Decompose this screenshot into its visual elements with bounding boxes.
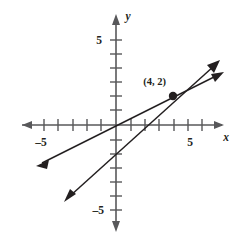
- line-series-1: [36, 72, 224, 169]
- coordinate-plane-figure: –5 5 5 –5 x y (4, 2): [0, 0, 242, 242]
- x-tick-label-positive-5: 5: [187, 136, 193, 148]
- line-2-segment: [70, 66, 214, 196]
- x-axis-left-arrow-icon: [22, 121, 32, 129]
- y-axis: [112, 14, 120, 232]
- x-tick-label-negative-5: –5: [34, 136, 47, 148]
- line-1-end-arrow-icon: [211, 72, 224, 82]
- x-axis-right-arrow-icon: [214, 121, 224, 129]
- y-tick-label-positive-5: 5: [96, 34, 102, 46]
- y-axis-label: y: [123, 10, 131, 23]
- y-axis-bottom-arrow-icon: [112, 221, 120, 232]
- y-tick-label-negative-5: –5: [92, 204, 105, 216]
- graph-canvas: –5 5 5 –5 x y (4, 2): [0, 0, 242, 242]
- y-axis-top-arrow-icon: [112, 14, 120, 25]
- point-coordinate-label: (4, 2): [143, 76, 166, 88]
- x-axis-label: x: [222, 131, 229, 143]
- line-2-start-arrow-icon: [64, 189, 76, 202]
- line-1-start-arrow-icon: [36, 160, 49, 169]
- intersection-point-marker: [169, 92, 177, 100]
- line-1-segment: [42, 75, 218, 163]
